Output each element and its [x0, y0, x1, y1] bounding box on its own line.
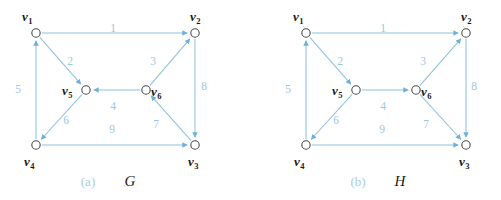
edge-label-7: 7 [153, 118, 159, 130]
graph-vertex-v5 [352, 86, 360, 94]
vertex-label-v4: v4 [24, 154, 35, 171]
graph-vertex-v2 [191, 29, 199, 37]
edge-label-5: 5 [15, 83, 21, 95]
vertex-label-v1: v1 [22, 9, 32, 26]
edge-label-6: 6 [63, 114, 69, 126]
vertex-label-v1: v1 [293, 9, 303, 26]
graph-edge-2 [40, 37, 81, 84]
edge-label-2: 2 [67, 55, 73, 67]
graph-vertex-v6 [412, 86, 420, 94]
graph-edge-2 [310, 37, 351, 84]
graph-vertex-v2 [462, 29, 470, 37]
edge-label-8: 8 [201, 80, 207, 92]
graph-edge-6 [41, 94, 82, 139]
edge-label-8: 8 [471, 80, 477, 92]
edge-label-1: 1 [110, 22, 116, 34]
edges-layer [36, 33, 466, 145]
vertex-label-v4: v4 [294, 154, 305, 171]
vertex-label-v2: v2 [461, 9, 471, 26]
graph-vertex-v3 [462, 141, 470, 149]
edge-label-7: 7 [423, 118, 429, 130]
labels-layer: 123456789v1v2v3v4v5v6(a)G123456789v1v2v3… [15, 9, 477, 189]
vertex-label-v5: v5 [332, 83, 342, 100]
graph-edge-6 [311, 94, 352, 139]
graph-vertex-v4 [32, 141, 40, 149]
vertex-label-v5: v5 [62, 83, 72, 100]
caption-graph-name: G [125, 173, 136, 189]
caption-index: (b) [350, 174, 365, 189]
edge-label-2: 2 [337, 55, 343, 67]
edge-label-5: 5 [285, 83, 291, 95]
edge-label-3: 3 [150, 55, 156, 67]
vertex-label-v3: v3 [188, 154, 198, 171]
caption-graph-name: H [394, 173, 407, 189]
edge-label-1: 1 [380, 22, 386, 34]
edge-label-6: 6 [333, 114, 339, 126]
graph-edge-3 [420, 39, 461, 86]
edge-label-9: 9 [379, 123, 385, 135]
vertex-label-v6: v6 [421, 84, 431, 101]
nodes-layer [32, 29, 470, 149]
edge-label-3: 3 [420, 55, 426, 67]
vertex-label-v6: v6 [151, 84, 161, 101]
graph-vertex-v1 [32, 29, 40, 37]
caption-index: (a) [81, 174, 95, 189]
graph-edge-7 [420, 94, 461, 139]
vertex-label-v3: v3 [459, 154, 469, 171]
edge-label-9: 9 [109, 123, 115, 135]
figure-canvas: 123456789v1v2v3v4v5v6(a)G123456789v1v2v3… [0, 0, 501, 200]
edge-label-4: 4 [380, 100, 386, 112]
graph-vertex-v3 [191, 141, 199, 149]
edge-label-4: 4 [110, 100, 116, 112]
graph-vertex-v6 [142, 86, 150, 94]
graph-vertex-v5 [82, 86, 90, 94]
graph-vertex-v1 [302, 29, 310, 37]
graph-vertex-v4 [302, 141, 310, 149]
directed-graph-figure: 123456789v1v2v3v4v5v6(a)G123456789v1v2v3… [0, 0, 501, 200]
vertex-label-v2: v2 [190, 9, 200, 26]
